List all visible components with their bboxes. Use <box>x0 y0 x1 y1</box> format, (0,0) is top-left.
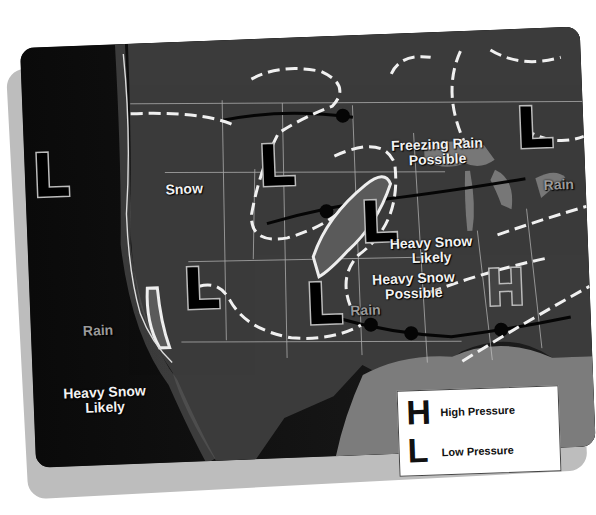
high-pressure-icon: H <box>406 395 432 430</box>
label-rain-east: Rain <box>543 177 574 193</box>
label-heavy-snow-possible: Heavy Snow Possible <box>372 269 456 302</box>
label-line: Likely <box>390 249 473 267</box>
legend-high-label: High Pressure <box>440 404 515 419</box>
label-freezing-rain: Freezing Rain Possible <box>391 135 484 169</box>
label-line: Possible <box>372 284 455 302</box>
label-heavy-snow-likely-west: Heavy Snow Likely <box>63 383 147 416</box>
label-snow: Snow <box>165 181 203 197</box>
label-heavy-snow-likely-central: Heavy Snow Likely <box>390 234 474 267</box>
label-rain-central: Rain <box>350 302 381 318</box>
legend: H High Pressure L Low Pressure <box>397 385 562 477</box>
legend-low-label: Low Pressure <box>442 444 515 459</box>
label-line: Likely <box>64 398 147 416</box>
label-rain-west: Rain <box>83 323 114 339</box>
low-pressure-icon: L <box>407 433 429 468</box>
